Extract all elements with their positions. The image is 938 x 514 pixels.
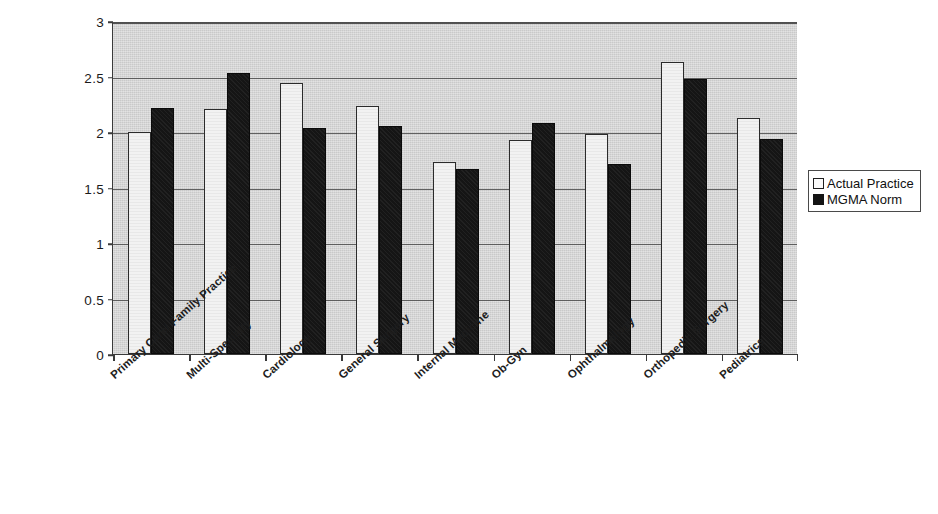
- bar-actual-practice: [356, 106, 379, 354]
- y-axis-tick-mark: [108, 77, 113, 79]
- bar-actual-practice: [128, 132, 151, 354]
- bar-actual-practice: [585, 134, 608, 354]
- y-axis-tick-label: 2.5: [84, 70, 104, 85]
- bar-group: [737, 22, 783, 354]
- bar-group: [661, 22, 707, 354]
- y-axis-tick-label: 3: [96, 15, 104, 30]
- y-axis-tick-label: 1: [96, 237, 104, 252]
- x-axis-tick-mark: [494, 354, 496, 361]
- y-axis-tick-label: 1.5: [84, 181, 104, 196]
- bar-group: [356, 22, 402, 354]
- bar-mgma-norm: [303, 128, 326, 354]
- y-axis-tick-mark: [108, 132, 113, 134]
- bar-actual-practice: [661, 62, 684, 354]
- plot-area: 00.511.522.53: [112, 22, 797, 355]
- x-axis-tick-mark: [265, 354, 267, 361]
- bar-group: [509, 22, 555, 354]
- bar-actual-practice: [280, 83, 303, 354]
- x-axis-tick-mark: [646, 354, 648, 361]
- legend-label-actual-practice: Actual Practice: [827, 176, 914, 191]
- bar-group: [433, 22, 479, 354]
- legend-swatch-actual-practice: [813, 178, 824, 189]
- x-axis-tick-mark: [417, 354, 419, 361]
- bar-mgma-norm: [227, 73, 250, 354]
- bar-actual-practice: [737, 118, 760, 354]
- legend-label-mgma-norm: MGMA Norm: [827, 192, 902, 207]
- bar-group: [204, 22, 250, 354]
- bar-mgma-norm: [760, 139, 783, 354]
- y-axis-tick-label: 0.5: [84, 292, 104, 307]
- bar-group: [128, 22, 174, 354]
- y-axis-tick-mark: [108, 299, 113, 301]
- bar-actual-practice: [433, 162, 456, 354]
- legend-item-actual-practice: Actual Practice: [813, 175, 914, 191]
- legend-swatch-mgma-norm: [813, 194, 824, 205]
- y-axis-tick-label: 2: [96, 126, 104, 141]
- x-axis-tick-mark: [113, 354, 115, 361]
- bar-group: [280, 22, 326, 354]
- y-axis-tick-mark: [108, 243, 113, 245]
- bar-actual-practice: [509, 140, 532, 354]
- x-axis-tick-mark: [797, 354, 799, 361]
- bar-actual-practice: [204, 109, 227, 354]
- bar-chart: 00.511.522.53 Primary Care/ Family Pract…: [0, 0, 938, 514]
- y-axis-tick-mark: [108, 21, 113, 23]
- y-axis-tick-label: 0: [96, 348, 104, 363]
- bar-mgma-norm: [684, 79, 707, 354]
- chart-legend: Actual Practice MGMA Norm: [808, 170, 921, 212]
- x-axis-tick-mark: [570, 354, 572, 361]
- x-axis-tick-mark: [189, 354, 191, 361]
- y-axis-tick-mark: [108, 188, 113, 190]
- x-axis-tick-mark: [341, 354, 343, 361]
- x-axis-tick-mark: [722, 354, 724, 361]
- bar-mgma-norm: [532, 123, 555, 354]
- legend-item-mgma-norm: MGMA Norm: [813, 191, 914, 207]
- bar-group: [585, 22, 631, 354]
